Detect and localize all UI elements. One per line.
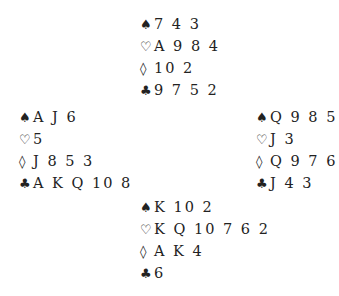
- club-icon: ♣: [256, 173, 268, 195]
- south-clubs: ♣6: [140, 262, 270, 284]
- east-hand: ♠Q 9 8 5 ♡J 3 ◊Q 9 7 6 ♣J 4 3: [256, 106, 337, 194]
- spade-icon: ♠: [19, 107, 31, 129]
- club-icon: ♣: [19, 173, 31, 195]
- south-diamonds: ◊A K 4: [140, 240, 270, 262]
- west-diamonds: ◊J 8 5 3: [19, 150, 132, 172]
- west-clubs: ♣A K Q 10 8: [19, 172, 132, 194]
- east-clubs: ♣J 4 3: [256, 172, 337, 194]
- north-spades: ♠7 4 3: [140, 13, 220, 35]
- east-diamonds: ◊Q 9 7 6: [256, 150, 337, 172]
- heart-icon: ♡: [256, 129, 268, 151]
- diamond-icon: ◊: [256, 151, 268, 173]
- west-hearts: ♡5: [19, 128, 132, 150]
- heart-icon: ♡: [140, 219, 152, 241]
- spade-icon: ♠: [256, 107, 268, 129]
- diamond-icon: ◊: [140, 241, 152, 263]
- club-icon: ♣: [140, 263, 152, 285]
- south-hearts: ♡K Q 10 7 6 2: [140, 218, 270, 240]
- club-icon: ♣: [140, 80, 152, 102]
- north-hearts: ♡A 9 8 4: [140, 35, 220, 57]
- north-diamonds: ◊10 2: [140, 57, 220, 79]
- heart-icon: ♡: [140, 36, 152, 58]
- east-hearts: ♡J 3: [256, 128, 337, 150]
- heart-icon: ♡: [19, 129, 31, 151]
- spade-icon: ♠: [140, 197, 152, 219]
- west-hand: ♠A J 6 ♡5 ◊J 8 5 3 ♣A K Q 10 8: [19, 106, 132, 194]
- west-spades: ♠A J 6: [19, 106, 132, 128]
- north-clubs: ♣9 7 5 2: [140, 79, 220, 101]
- south-spades: ♠K 10 2: [140, 196, 270, 218]
- spade-icon: ♠: [140, 14, 152, 36]
- diamond-icon: ◊: [19, 151, 31, 173]
- diamond-icon: ◊: [140, 58, 152, 80]
- north-hand: ♠7 4 3 ♡A 9 8 4 ◊10 2 ♣9 7 5 2: [140, 13, 220, 101]
- south-hand: ♠K 10 2 ♡K Q 10 7 6 2 ◊A K 4 ♣6: [140, 196, 270, 284]
- east-spades: ♠Q 9 8 5: [256, 106, 337, 128]
